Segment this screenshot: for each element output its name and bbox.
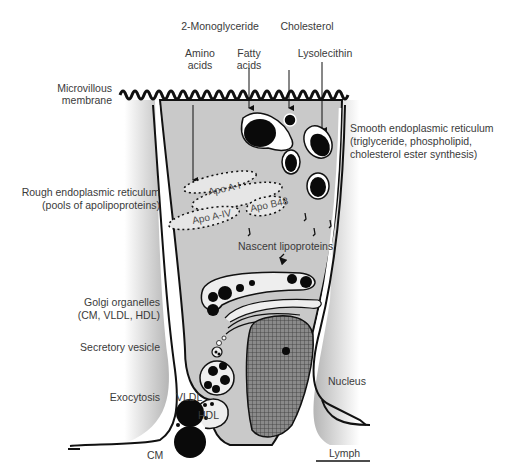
label-smooth-er-1: Smooth endoplasmic reticulum — [350, 122, 494, 134]
label-smooth-er-3: cholesterol ester synthesis) — [350, 148, 477, 160]
label-rough-er-2: (pools of apolipoproteins) — [0, 199, 160, 211]
label-golgi-1: Golgi organelles — [60, 296, 160, 308]
nucleolus — [282, 347, 290, 355]
label-2-monoglyceride: 2-Monoglyceride — [175, 20, 265, 32]
label-smooth-er-2: (triglyceride, phospholipid, — [350, 135, 472, 147]
label-cm: CM — [147, 449, 163, 461]
label-hdl: HDL — [198, 409, 219, 421]
label-nascent-lipoproteins: Nascent lipoproteins — [238, 240, 333, 252]
label-secretory-vesicle: Secretory vesicle — [60, 341, 160, 353]
microvillous-membrane — [120, 91, 348, 99]
label-cholesterol: Cholesterol — [272, 20, 342, 32]
cholesterol-droplet — [284, 114, 296, 126]
label-fatty-acids-2: acids — [229, 59, 269, 71]
label-rough-er-1: Rough endoplasmic reticulum — [0, 186, 160, 198]
label-exocytosis: Exocytosis — [60, 391, 160, 403]
label-lymph: Lymph — [329, 447, 360, 459]
label-golgi-2: (CM, VLDL, HDL) — [60, 309, 160, 321]
enterocyte-diagram: 2-Monoglyceride Cholesterol Amino acids … — [0, 0, 505, 467]
label-amino-acids-2: acids — [175, 59, 225, 71]
label-amino-acids-1: Amino — [175, 47, 225, 59]
label-microvillous-1: Microvillous — [30, 82, 112, 94]
label-microvillous-2: membrane — [30, 94, 112, 106]
cm-particle — [174, 426, 206, 458]
label-nucleus: Nucleus — [328, 375, 366, 387]
label-fatty-acids-1: Fatty — [229, 47, 269, 59]
label-lysolecithin: Lysolecithin — [290, 47, 360, 59]
nucleus — [246, 316, 313, 437]
label-vldl: VLDL — [176, 391, 202, 403]
